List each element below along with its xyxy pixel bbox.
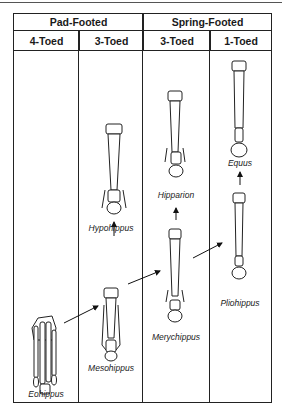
label-equus: Equus (211, 158, 269, 168)
bone-illustrations (0, 0, 282, 412)
mesohippus-foot-icon (102, 288, 120, 361)
hypohippus-foot-icon (102, 124, 126, 214)
label-merychippus: Merychippus (144, 332, 208, 342)
label-mesohippus: Mesohippus (82, 363, 140, 373)
label-pliohippus: Pliohippus (211, 298, 269, 308)
label-hipparion: Hipparion (146, 190, 206, 200)
label-eohippus: Eohippus (20, 389, 72, 399)
label-hypohippus: Hypohippus (82, 223, 140, 233)
arrow-icon (64, 306, 98, 323)
arrow-icon (193, 243, 222, 258)
eohippus-foot-icon (32, 316, 57, 394)
merychippus-foot-icon (166, 229, 184, 322)
hipparion-foot-icon (165, 91, 185, 177)
pliohippus-foot-icon (232, 193, 246, 279)
arrow-icon (128, 271, 160, 284)
equus-foot-icon (231, 61, 247, 157)
